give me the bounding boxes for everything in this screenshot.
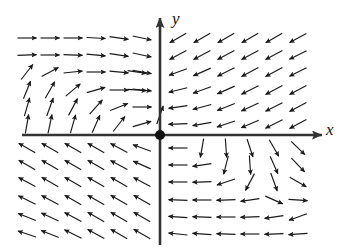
field-arrow — [246, 174, 255, 191]
field-arrow — [218, 33, 234, 43]
field-arrow — [217, 179, 235, 185]
field-arrow — [249, 156, 250, 175]
field-arrow — [193, 182, 212, 183]
field-arrow — [19, 178, 36, 187]
field-arrow — [65, 213, 82, 222]
field-arrow — [266, 68, 283, 77]
field-arrow — [88, 177, 104, 187]
field-arrow — [266, 51, 283, 60]
field-arrow — [265, 120, 282, 128]
field-arrow — [19, 160, 35, 170]
field-arrow — [193, 105, 211, 110]
field-arrow — [69, 99, 78, 116]
field-arrow — [266, 86, 283, 95]
field-arrow — [265, 216, 284, 219]
field-arrow — [65, 195, 81, 205]
field-arrow — [217, 200, 236, 201]
field-arrow — [87, 38, 106, 39]
field-arrow — [18, 196, 35, 204]
field-arrow — [42, 160, 58, 170]
field-arrow — [21, 65, 33, 80]
field-arrow — [42, 196, 59, 205]
field-arrow — [110, 54, 129, 57]
field-arrow — [224, 156, 229, 174]
field-arrow — [133, 53, 152, 57]
field-arrow — [193, 233, 212, 234]
field-arrow — [169, 216, 188, 217]
field-arrow — [111, 212, 127, 222]
field-arrow — [23, 81, 30, 99]
field-arrow — [290, 177, 306, 187]
field-arrow — [217, 68, 234, 76]
field-arrow — [111, 161, 128, 170]
field-arrow — [169, 124, 188, 125]
field-arrow — [110, 103, 128, 110]
field-arrow — [64, 55, 83, 56]
field-arrow — [289, 68, 306, 76]
field-arrow — [169, 88, 187, 93]
field-arrow — [193, 122, 212, 125]
field-arrow — [111, 144, 128, 153]
field-arrow — [134, 195, 150, 205]
field-arrow — [42, 68, 59, 77]
field-arrow — [265, 196, 282, 204]
field-arrow — [247, 139, 253, 157]
y-axis-label: y — [172, 10, 180, 27]
field-arrow — [271, 173, 278, 191]
field-arrow — [217, 103, 235, 110]
field-arrow — [113, 117, 125, 132]
x-axis-label: x — [326, 121, 334, 138]
field-arrow — [110, 37, 129, 40]
field-arrow — [217, 86, 234, 94]
field-arrow — [65, 143, 81, 153]
field-arrow — [87, 54, 106, 56]
field-arrow — [111, 195, 127, 205]
vector-field-plot — [0, 0, 349, 252]
field-arrow — [289, 233, 308, 234]
field-arrow — [18, 231, 36, 237]
field-arrow — [270, 156, 278, 173]
field-arrow — [241, 86, 258, 94]
field-arrow — [66, 84, 81, 96]
field-arrow — [134, 229, 150, 239]
field-arrow — [241, 120, 258, 127]
field-arrow — [41, 213, 58, 221]
field-arrow — [193, 68, 210, 76]
field-arrow — [169, 200, 188, 201]
field-arrow — [170, 51, 187, 60]
field-arrow — [290, 120, 307, 129]
field-arrow — [241, 217, 260, 218]
field-arrow — [266, 103, 283, 112]
field-arrow — [92, 115, 100, 132]
field-arrow — [242, 33, 258, 43]
field-arrow — [110, 71, 129, 73]
axes-group — [22, 18, 322, 245]
field-arrow — [291, 158, 304, 172]
field-arrow — [242, 51, 259, 60]
field-arrow — [265, 234, 284, 235]
field-arrow — [241, 199, 260, 202]
field-arrow — [193, 87, 211, 94]
field-arrow — [290, 103, 307, 112]
field-arrow — [70, 115, 75, 133]
field-arrow — [45, 82, 55, 98]
field-arrow — [134, 178, 151, 187]
field-arrow — [88, 195, 104, 205]
field-arrow — [65, 177, 81, 187]
field-arrow — [42, 177, 58, 187]
field-arrow — [169, 106, 188, 109]
field-arrow — [133, 145, 151, 152]
field-arrow — [19, 143, 35, 153]
field-arrow — [64, 230, 81, 238]
field-arrow — [200, 139, 203, 158]
field-arrow — [18, 213, 36, 220]
field-arrow — [41, 230, 59, 237]
field-arrow — [24, 98, 29, 116]
field-arrow — [169, 69, 187, 76]
field-arrow — [133, 121, 151, 126]
field-arrow — [217, 234, 236, 235]
field-arrow — [269, 140, 279, 156]
field-arrow — [193, 217, 212, 218]
field-arrow — [90, 100, 103, 114]
field-arrow — [18, 55, 37, 56]
